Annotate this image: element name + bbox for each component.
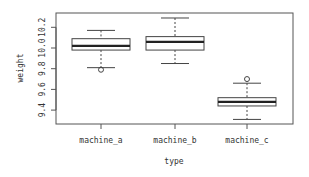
box-machine-a <box>72 30 130 72</box>
y-tick-label: 9.4 <box>38 103 47 118</box>
y-tick-label: 9.6 <box>38 82 47 97</box>
y-tick-label: 10.0 <box>38 38 47 57</box>
plot-frame <box>56 13 293 124</box>
box-machine-b <box>146 18 204 64</box>
x-tick-label: machine_b <box>153 136 197 145</box>
boxplot-chart: 9.49.69.810.010.2 machine_amachine_bmach… <box>0 0 309 177</box>
box-machine-c <box>218 77 276 120</box>
y-tick-label: 10.2 <box>38 17 47 36</box>
y-axis-title: weight <box>16 53 25 82</box>
y-tick-label: 9.8 <box>38 61 47 76</box>
outlier-point <box>245 77 250 82</box>
x-axis: machine_amachine_bmachine_c <box>79 124 269 145</box>
x-axis-title: type <box>164 157 183 166</box>
y-axis: 9.49.69.810.010.2 <box>38 17 56 117</box>
x-tick-label: machine_a <box>79 136 123 145</box>
boxes <box>72 18 276 119</box>
x-tick-label: machine_c <box>225 136 269 145</box>
